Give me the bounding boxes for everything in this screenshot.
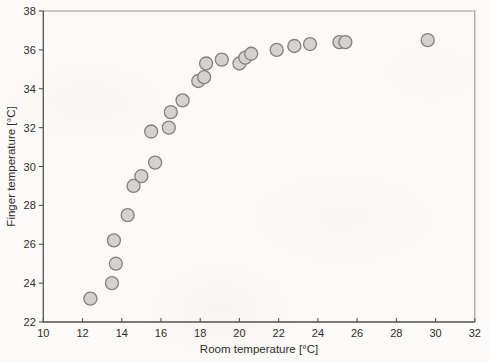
y-tick-label: 32 [24,122,36,134]
data-point [149,156,162,169]
data-point [105,277,118,290]
data-point [107,234,120,247]
data-point [109,257,122,270]
x-tick-label: 22 [273,327,285,339]
data-point [270,43,283,56]
y-tick-label: 22 [24,316,36,328]
y-tick-label: 26 [24,238,36,250]
y-tick-label: 24 [24,277,36,289]
y-tick-label: 30 [24,161,36,173]
x-tick-label: 16 [155,327,167,339]
x-tick-label: 18 [194,327,206,339]
x-tick-label: 20 [233,327,245,339]
data-point [162,121,175,134]
y-tick-label: 36 [24,44,36,56]
x-tick-label: 12 [76,327,88,339]
y-tick-label: 28 [24,199,36,211]
data-point [176,94,189,107]
axis-lines [43,11,475,322]
data-point [288,39,301,52]
plot-box-top-right [43,11,475,322]
x-tick-label: 30 [429,327,441,339]
x-tick-label: 14 [116,327,128,339]
x-tick-label: 24 [312,327,324,339]
y-tick-label: 34 [24,83,36,95]
data-point [164,106,177,119]
scatter-figure: 1012141618202224262830322224262830323436… [0,0,489,363]
x-tick-label: 26 [351,327,363,339]
data-point [198,71,211,84]
data-point [135,170,148,183]
data-point [215,53,228,66]
scatter-plot: 1012141618202224262830322224262830323436… [0,0,489,363]
data-point [200,57,213,70]
y-axis-title: Finger temperature [°C] [5,106,17,226]
x-tick-label: 10 [37,327,49,339]
data-point [145,125,158,138]
x-tick-label: 32 [469,327,481,339]
data-point [304,38,317,51]
x-tick-label: 28 [390,327,402,339]
x-axis-title: Room temperature [°C] [200,343,318,355]
data-point [245,47,258,60]
data-point [421,34,434,47]
data-point [121,209,134,222]
data-point [84,292,97,305]
data-point [339,36,352,49]
y-tick-label: 38 [24,5,36,17]
